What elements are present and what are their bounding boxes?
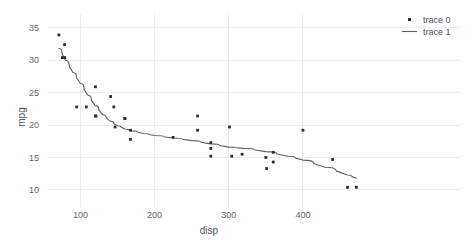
data-point [265, 167, 268, 170]
data-point [61, 56, 64, 59]
y-tick-label: 35 [29, 23, 39, 33]
y-tick-label: 10 [29, 185, 39, 195]
data-point [112, 106, 115, 109]
y-tick-label: 20 [29, 120, 39, 130]
data-point [355, 186, 358, 189]
x-tick-label: 100 [73, 210, 88, 220]
x-axis-title: disp [200, 225, 219, 236]
data-point [129, 138, 132, 141]
data-point [331, 158, 334, 161]
data-point [196, 115, 199, 118]
plot-canvas: 100200300400 101520253035 disp mpg trace… [0, 0, 471, 249]
data-point [272, 161, 275, 164]
data-point [228, 126, 231, 129]
x-tick-label: 300 [221, 210, 236, 220]
trend-line [59, 49, 356, 179]
data-point [272, 151, 275, 154]
data-point [58, 34, 61, 37]
data-point [63, 43, 66, 46]
y-tick-label: 25 [29, 88, 39, 98]
data-point [124, 117, 127, 120]
data-point [346, 186, 349, 189]
data-point [114, 126, 117, 129]
data-point [209, 141, 212, 144]
data-point [85, 106, 88, 109]
data-point [129, 129, 132, 132]
y-tick-label: 15 [29, 153, 39, 163]
x-axis-tick-labels: 100200300400 [73, 210, 311, 220]
legend[interactable]: trace 0trace 1 [402, 15, 451, 37]
data-point [196, 129, 199, 132]
y-axis-tick-labels: 101520253035 [29, 23, 39, 195]
data-point [63, 56, 66, 59]
data-point [230, 155, 233, 158]
gridlines-group [47, 14, 461, 207]
x-tick-label: 200 [147, 210, 162, 220]
data-point [94, 85, 97, 88]
data-point [241, 153, 244, 156]
legend-item-label[interactable]: trace 0 [423, 15, 451, 25]
legend-marker-icon [408, 18, 411, 21]
data-point [209, 155, 212, 158]
data-point [264, 156, 267, 159]
data-point [75, 106, 78, 109]
data-point [209, 147, 212, 150]
y-axis-title: mpg [16, 107, 27, 126]
y-tick-label: 30 [29, 55, 39, 65]
trend-line-group [59, 49, 356, 179]
scatter-plot-figure: 100200300400 101520253035 disp mpg trace… [0, 0, 471, 249]
data-point [95, 115, 98, 118]
legend-item-label[interactable]: trace 1 [423, 27, 451, 37]
data-point [302, 129, 305, 132]
x-tick-label: 400 [295, 210, 310, 220]
data-point [172, 136, 175, 139]
data-point [109, 95, 112, 98]
data-points-group [58, 34, 358, 189]
